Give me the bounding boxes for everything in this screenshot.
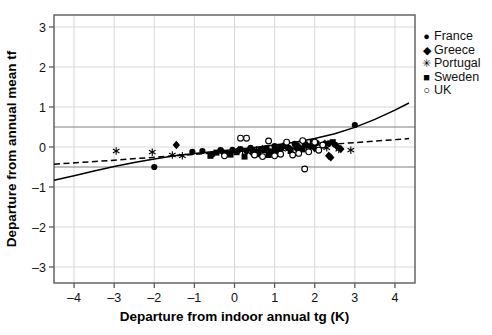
filled-diamond-icon: ◆ bbox=[420, 44, 433, 57]
data-point-uk bbox=[312, 139, 318, 145]
x-tick-label: 2 bbox=[311, 291, 318, 305]
legend-label-sweden: Sweden bbox=[434, 71, 479, 85]
data-point-france bbox=[189, 149, 195, 155]
data-point-uk bbox=[316, 147, 322, 153]
data-point-uk bbox=[306, 149, 312, 155]
x-tick-label: –2 bbox=[147, 291, 161, 305]
chart-legend: ● France ◆ Greece ✳ Portugal ■ Sweden ○ … bbox=[420, 30, 481, 98]
y-tick-label: 3 bbox=[39, 21, 46, 35]
legend-item-sweden: ■ Sweden bbox=[420, 71, 481, 85]
y-tick-label: 2 bbox=[39, 61, 46, 75]
data-point-uk bbox=[300, 138, 306, 144]
data-point-sweden bbox=[227, 152, 233, 158]
x-tick-label: 4 bbox=[391, 291, 398, 305]
data-point-sweden bbox=[207, 153, 213, 159]
x-axis-label: Departure from indoor annual tg (K) bbox=[120, 309, 350, 324]
legend-label-france: France bbox=[434, 30, 473, 44]
y-tick-label: –1 bbox=[32, 181, 46, 195]
legend-item-portugal: ✳ Portugal bbox=[420, 57, 481, 71]
data-point-uk bbox=[238, 135, 244, 141]
data-point-uk bbox=[260, 154, 266, 160]
y-axis-label: Departure from annual mean tf bbox=[4, 50, 19, 247]
legend-label-uk: UK bbox=[434, 84, 451, 98]
x-tick-label: 0 bbox=[231, 291, 238, 305]
data-point-sweden bbox=[330, 139, 336, 145]
solid-fit-curve bbox=[54, 103, 409, 180]
x-tick-label: 3 bbox=[351, 291, 358, 305]
data-point-portugal bbox=[348, 146, 355, 154]
data-point-uk bbox=[290, 152, 296, 158]
data-point-portugal bbox=[169, 151, 176, 159]
data-point-uk bbox=[302, 166, 308, 172]
y-tick-label: 0 bbox=[39, 141, 46, 155]
x-tick-label: 1 bbox=[271, 291, 278, 305]
data-point-uk bbox=[244, 135, 250, 141]
data-point-greece bbox=[173, 141, 180, 149]
data-point-uk bbox=[266, 138, 272, 144]
legend-item-france: ● France bbox=[420, 30, 481, 44]
chart-figure: –4–3–2–101234–3–2–10123Departure from in… bbox=[0, 0, 492, 335]
y-tick-label: –3 bbox=[32, 261, 46, 275]
y-tick-label: –2 bbox=[32, 221, 46, 235]
data-point-uk bbox=[296, 151, 302, 157]
x-tick-label: –3 bbox=[107, 291, 121, 305]
x-tick-label: –1 bbox=[187, 291, 201, 305]
data-point-sweden bbox=[294, 142, 300, 148]
legend-label-portugal: Portugal bbox=[434, 57, 481, 71]
data-point-sweden bbox=[213, 150, 219, 156]
x-tick-label: –4 bbox=[67, 291, 81, 305]
scatter-plot: –4–3–2–101234–3–2–10123Departure from in… bbox=[0, 0, 492, 335]
data-point-uk bbox=[272, 153, 278, 159]
y-tick-label: 1 bbox=[39, 101, 46, 115]
data-point-sweden bbox=[278, 145, 284, 151]
legend-item-uk: ○ UK bbox=[420, 84, 481, 98]
data-point-france bbox=[199, 148, 205, 154]
data-point-france bbox=[352, 122, 358, 128]
data-point-france bbox=[151, 164, 157, 170]
legend-item-greece: ◆ Greece bbox=[420, 44, 481, 58]
data-point-uk bbox=[252, 152, 258, 158]
data-point-uk bbox=[320, 142, 326, 148]
data-point-uk bbox=[222, 153, 228, 159]
data-point-sweden bbox=[266, 152, 272, 158]
data-point-uk bbox=[278, 151, 284, 157]
open-circle-icon: ○ bbox=[420, 84, 433, 97]
data-point-sweden bbox=[242, 154, 248, 160]
data-point-uk bbox=[284, 139, 290, 145]
filled-circle-icon: ● bbox=[420, 30, 433, 43]
star-icon: ✳ bbox=[420, 57, 433, 70]
legend-label-greece: Greece bbox=[434, 44, 475, 58]
filled-square-icon: ■ bbox=[420, 71, 433, 84]
data-point-sweden bbox=[234, 149, 240, 155]
